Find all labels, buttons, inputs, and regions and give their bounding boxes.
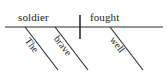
subject-word: soldier (18, 12, 49, 23)
sentence-diagram: soldier fought The brave well (0, 0, 167, 72)
verb-word: fought (90, 12, 119, 23)
